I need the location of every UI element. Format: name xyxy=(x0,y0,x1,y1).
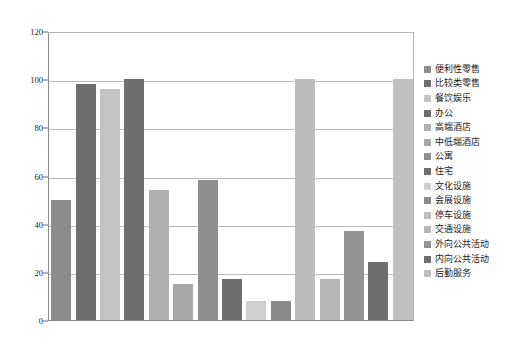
legend-item[interactable]: 公寓 xyxy=(424,150,517,165)
legend-item[interactable]: 交通设施 xyxy=(424,223,517,238)
legend-swatch-icon xyxy=(424,66,431,73)
legend-item[interactable]: 住宅 xyxy=(424,164,517,179)
legend-item[interactable]: 比较类零售 xyxy=(424,77,517,92)
legend-item[interactable]: 办公 xyxy=(424,106,517,121)
legend-item-label: 后勤服务 xyxy=(435,269,471,278)
legend-item[interactable]: 会展设施 xyxy=(424,193,517,208)
legend-item[interactable]: 便利性零售 xyxy=(424,62,517,77)
legend-item-label: 外向公共活动 xyxy=(435,240,489,249)
bar xyxy=(246,301,266,320)
legend-swatch-icon xyxy=(424,110,431,117)
legend-swatch-icon xyxy=(424,124,431,131)
bar xyxy=(173,284,193,320)
legend-item[interactable]: 外向公共活动 xyxy=(424,237,517,252)
legend-swatch-icon xyxy=(424,95,431,102)
bar xyxy=(368,262,388,320)
legend-item-label: 高端酒店 xyxy=(435,123,471,132)
legend-item-label: 便利性零售 xyxy=(435,65,480,74)
legend-swatch-icon xyxy=(424,197,431,204)
legend-item-label: 文化设施 xyxy=(435,182,471,191)
bar xyxy=(198,180,218,320)
legend-item-label: 停车设施 xyxy=(435,211,471,220)
legend-item-label: 内向公共活动 xyxy=(435,255,489,264)
legend-item-label: 办公 xyxy=(435,109,453,118)
bar xyxy=(344,231,364,320)
legend-swatch-icon xyxy=(424,183,431,190)
legend-swatch-icon xyxy=(424,270,431,277)
legend-item[interactable]: 高端酒店 xyxy=(424,120,517,135)
legend-item[interactable]: 中低端酒店 xyxy=(424,135,517,150)
bar xyxy=(222,279,242,320)
bar-series xyxy=(49,33,413,320)
legend-item-label: 公寓 xyxy=(435,152,453,161)
y-axis-tick-marks xyxy=(0,32,48,321)
legend-swatch-icon xyxy=(424,139,431,146)
legend-item[interactable]: 餐饮娱乐 xyxy=(424,91,517,106)
legend-item-label: 交通设施 xyxy=(435,225,471,234)
legend-swatch-icon xyxy=(424,168,431,175)
legend-item-label: 餐饮娱乐 xyxy=(435,94,471,103)
legend-swatch-icon xyxy=(424,226,431,233)
legend-item[interactable]: 后勤服务 xyxy=(424,266,517,281)
legend-item[interactable]: 文化设施 xyxy=(424,179,517,194)
bar xyxy=(320,279,340,320)
legend-swatch-icon xyxy=(424,212,431,219)
bar xyxy=(149,190,169,320)
bar xyxy=(393,79,413,320)
legend-item-label: 中低端酒店 xyxy=(435,138,480,147)
legend-swatch-icon xyxy=(424,241,431,248)
bar xyxy=(295,79,315,320)
bar xyxy=(124,79,144,320)
legend-item[interactable]: 内向公共活动 xyxy=(424,252,517,267)
legend-item-label: 比较类零售 xyxy=(435,79,480,88)
legend-swatch-icon xyxy=(424,153,431,160)
bar xyxy=(76,84,96,320)
legend-item[interactable]: 停车设施 xyxy=(424,208,517,223)
bar xyxy=(51,200,71,320)
bar-chart: 020406080100120 便利性零售比较类零售餐饮娱乐办公高端酒店中低端酒… xyxy=(0,0,517,343)
plot-area xyxy=(48,32,414,321)
bar xyxy=(100,89,120,320)
legend-item-label: 住宅 xyxy=(435,167,453,176)
legend: 便利性零售比较类零售餐饮娱乐办公高端酒店中低端酒店公寓住宅文化设施会展设施停车设… xyxy=(424,62,517,281)
legend-swatch-icon xyxy=(424,256,431,263)
legend-swatch-icon xyxy=(424,80,431,87)
bar xyxy=(271,301,291,320)
legend-item-label: 会展设施 xyxy=(435,196,471,205)
